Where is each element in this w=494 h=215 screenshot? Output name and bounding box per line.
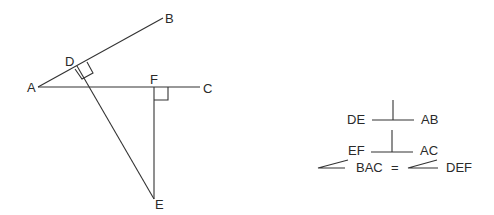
angle-icon xyxy=(318,160,348,168)
perpendicular-icon xyxy=(371,130,413,152)
statement-ef-perp-ac: EF AC xyxy=(348,130,438,158)
statement-de-perp-ab: DE AB xyxy=(347,100,438,127)
label-B: B xyxy=(165,11,174,26)
geometry-diagram: A B C D F E DE AB EF AC BAC = DEF xyxy=(0,0,494,215)
segment-AB xyxy=(38,18,163,87)
right-angle-marker-F xyxy=(154,87,168,100)
label-A: A xyxy=(27,80,36,95)
angle-icon xyxy=(408,160,438,168)
statement2-left: EF xyxy=(348,143,365,158)
label-E: E xyxy=(155,197,164,212)
statement2-right: AC xyxy=(420,143,438,158)
statement1-right: AB xyxy=(421,112,438,127)
perpendicular-icon xyxy=(372,100,414,120)
label-C: C xyxy=(203,81,212,96)
equals-sign: = xyxy=(391,160,399,175)
angle2-label: DEF xyxy=(446,160,472,175)
angle1-label: BAC xyxy=(356,160,383,175)
label-F: F xyxy=(150,72,158,87)
segment-DE xyxy=(77,66,154,199)
statement1-left: DE xyxy=(347,112,365,127)
statement-angle-equality: BAC = DEF xyxy=(318,160,472,175)
label-D: D xyxy=(65,54,74,69)
